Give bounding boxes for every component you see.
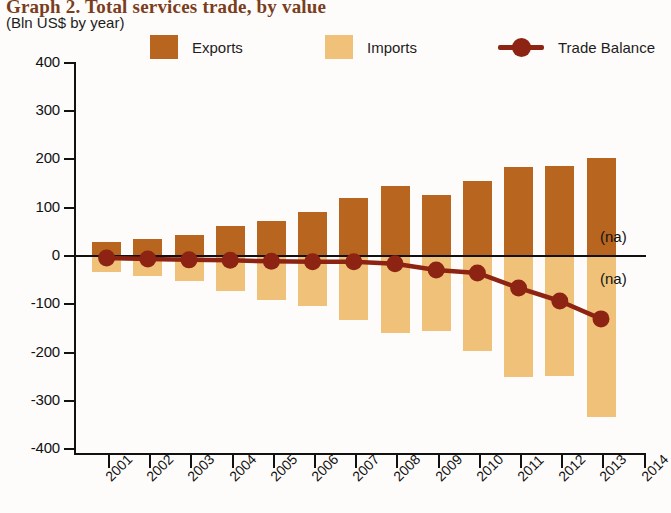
bar-imports: [545, 256, 574, 376]
bar-exports: [298, 212, 327, 256]
x-axis-label: 2002: [143, 451, 176, 484]
bar-exports: [463, 181, 492, 256]
y-axis-tick: [64, 158, 75, 160]
bar-exports: [504, 167, 533, 256]
bar-exports: [339, 198, 368, 256]
bar-exports: [257, 221, 286, 256]
bar-imports: [133, 256, 162, 276]
x-axis-label: 2012: [555, 451, 588, 484]
x-axis-label: 2009: [432, 451, 465, 484]
y-axis-tick: [64, 110, 75, 112]
bar-imports: [381, 256, 410, 333]
y-axis-label: 0: [12, 246, 60, 263]
x-axis-label: 2001: [102, 451, 135, 484]
y-axis-label: 100: [12, 198, 60, 215]
bar-imports: [339, 256, 368, 320]
zero-line: [74, 255, 646, 257]
x-axis-label: 2013: [596, 451, 629, 484]
na-label-lower: (na): [600, 270, 627, 287]
x-axis-label: 2005: [267, 451, 300, 484]
y-axis-tick: [64, 207, 75, 209]
bar-imports: [92, 256, 121, 272]
x-axis-label: 2014: [638, 451, 671, 484]
x-axis-label: 2011: [514, 452, 547, 485]
y-axis-label: 200: [12, 149, 60, 166]
y-axis-label: -200: [12, 343, 60, 360]
y-axis-tick: [64, 352, 75, 354]
bar-exports: [381, 186, 410, 256]
bar-exports: [175, 235, 204, 256]
bar-imports: [504, 256, 533, 377]
y-axis-label: 400: [12, 53, 60, 70]
y-axis-tick: [64, 400, 75, 402]
bar-exports: [92, 242, 121, 256]
x-axis-label: 2003: [184, 451, 217, 484]
bar-exports: [216, 226, 245, 256]
y-axis-label: -400: [12, 439, 60, 456]
bar-imports: [298, 256, 327, 306]
y-axis-label: -300: [12, 391, 60, 408]
bar-imports: [422, 256, 451, 331]
x-axis-label: 2010: [473, 451, 506, 484]
bar-imports: [216, 256, 245, 291]
y-axis-tick: [64, 448, 75, 450]
x-axis-label: 2006: [308, 451, 341, 484]
y-axis-label: 300: [12, 101, 60, 118]
na-label-upper: (na): [600, 228, 627, 245]
y-axis-line: [74, 62, 76, 454]
y-axis-tick: [64, 62, 75, 64]
y-axis-label: -100: [12, 294, 60, 311]
bar-exports: [545, 166, 574, 256]
x-axis-label: 2008: [390, 451, 423, 484]
bar-exports: [133, 239, 162, 256]
bar-imports: [463, 256, 492, 351]
x-axis-label: 2007: [349, 451, 382, 484]
bar-imports: [257, 256, 286, 300]
bar-exports: [422, 195, 451, 256]
bar-imports: [175, 256, 204, 281]
y-axis-tick: [64, 303, 75, 305]
x-axis-label: 2004: [226, 451, 259, 484]
